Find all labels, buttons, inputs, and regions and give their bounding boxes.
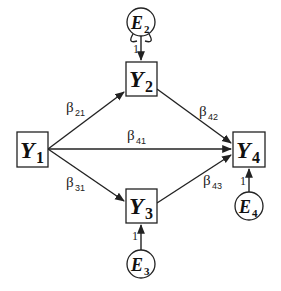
weight-e4-y4: 1: [240, 174, 246, 188]
label-b43: β 43: [203, 172, 222, 191]
y2-subscript: 2: [145, 78, 153, 95]
b31-symbol: β: [66, 174, 74, 190]
node-y3: Y 3: [126, 189, 157, 223]
y1-letter: Y: [20, 137, 37, 163]
b42-subscript: 42: [208, 112, 218, 122]
b43-subscript: 43: [212, 181, 222, 191]
weight-e2-y2: 1: [133, 42, 139, 56]
label-b31: β 31: [66, 174, 85, 193]
e3-subscript: 3: [144, 265, 150, 277]
e3-letter: E: [130, 255, 143, 275]
node-e4: E 4: [235, 192, 263, 220]
b41-symbol: β: [127, 127, 135, 143]
y4-letter: Y: [236, 137, 253, 163]
b31-subscript: 31: [75, 183, 85, 193]
y3-subscript: 3: [145, 205, 153, 222]
weight-e3-y3: 1: [132, 229, 138, 243]
node-y1: Y 1: [17, 132, 48, 167]
b21-symbol: β: [66, 99, 74, 115]
e4-subscript: 4: [252, 207, 258, 219]
b42-symbol: β: [199, 103, 207, 119]
b21-subscript: 21: [75, 108, 85, 118]
path-diagram: Y 1 Y 2 Y 3 Y 4 E 2 E 3 E 4 β 21 β 41: [0, 0, 281, 291]
node-e2: E 2: [127, 8, 155, 36]
y1-subscript: 1: [36, 149, 44, 166]
y4-subscript: 4: [252, 149, 260, 166]
node-y2: Y 2: [126, 62, 157, 96]
edge-y2-y4: [157, 89, 231, 143]
node-e3: E 3: [127, 250, 155, 278]
label-b41: β 41: [127, 127, 146, 146]
edge-y1-y2: [48, 92, 124, 149]
b43-symbol: β: [203, 172, 211, 188]
node-y4: Y 4: [233, 132, 265, 167]
y3-letter: Y: [129, 193, 146, 219]
e2-letter: E: [130, 13, 143, 33]
edge-y3-y4: [157, 155, 231, 203]
e4-letter: E: [238, 197, 251, 217]
edge-y1-y3: [48, 149, 124, 201]
e2-subscript: 2: [144, 23, 150, 35]
label-b42: β 42: [199, 103, 218, 122]
label-b21: β 21: [66, 99, 85, 118]
y2-letter: Y: [129, 66, 146, 92]
b41-subscript: 41: [136, 136, 146, 146]
